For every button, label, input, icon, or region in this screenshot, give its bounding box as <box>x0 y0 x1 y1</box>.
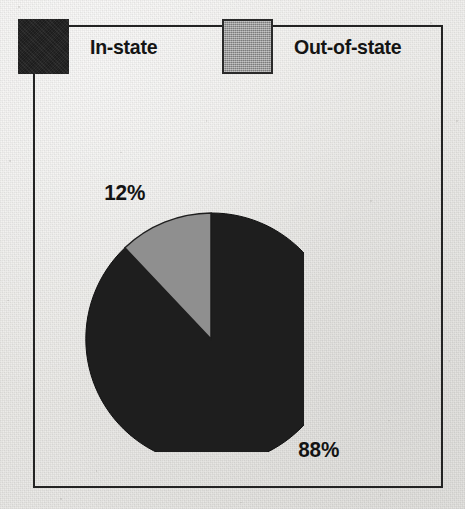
pie-label-in-state: 88% <box>298 437 339 463</box>
pie-label-out-of-state: 12% <box>104 180 145 206</box>
pie-graphic <box>52 180 304 452</box>
pie-chart-figure: In-state Out-of-state <box>0 0 465 509</box>
pie-plot-area: 12% 88% <box>0 0 465 509</box>
